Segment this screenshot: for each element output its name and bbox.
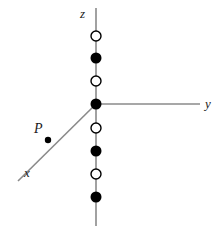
x-axis-label: x bbox=[24, 166, 30, 179]
point-p-label: P bbox=[34, 122, 43, 136]
open-circle-z-1 bbox=[91, 123, 101, 133]
filled-circle-z-2 bbox=[91, 146, 102, 157]
coordinate-axes-figure: z y x P bbox=[0, 0, 223, 232]
filled-circle-z3 bbox=[91, 53, 102, 64]
open-circle-z-3 bbox=[91, 169, 101, 179]
open-circle-z2 bbox=[91, 76, 101, 86]
point-p-dot bbox=[45, 137, 51, 143]
axis-lines bbox=[18, 8, 200, 226]
filled-circle-z-4 bbox=[91, 192, 102, 203]
y-axis-label: y bbox=[205, 97, 211, 110]
z-axis-label: z bbox=[80, 7, 85, 20]
open-circle-z4 bbox=[91, 31, 101, 41]
origin-marker bbox=[91, 99, 102, 110]
figure-canvas bbox=[0, 0, 223, 232]
